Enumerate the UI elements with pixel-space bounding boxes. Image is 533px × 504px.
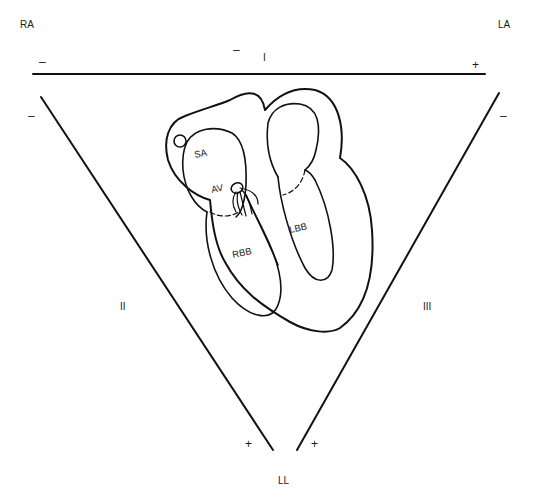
lead-2-negative-sign: – <box>28 109 35 123</box>
lead-1-label: I <box>263 52 266 63</box>
sa-node-label: SA <box>193 146 208 160</box>
einthoven-triangle-diagram: RA LA LL – – I + – II + – III + <box>0 0 533 504</box>
lead-3-label: III <box>423 301 431 312</box>
heart-outer-wall <box>166 89 372 332</box>
electrode-ll-label: LL <box>278 475 290 486</box>
lead-2-line <box>41 97 273 450</box>
mitral-boundary <box>283 170 305 195</box>
lead-1-positive-sign: + <box>472 58 479 72</box>
lead-3-negative-sign: – <box>500 109 507 123</box>
lead-2-positive-sign: + <box>245 437 252 451</box>
av-node-label: AV <box>210 182 225 195</box>
lead-1-center-sign: – <box>233 43 240 57</box>
heart-illustration: SA AV RBB LBB <box>166 89 372 332</box>
electrode-la-label: LA <box>498 19 511 30</box>
lbb-label: LBB <box>288 220 308 234</box>
right-atrium <box>183 129 246 217</box>
rbb-label: RBB <box>231 245 252 260</box>
lead-1-negative-sign: – <box>39 55 46 69</box>
lead-3-line <box>297 93 499 450</box>
left-atrium <box>267 104 318 177</box>
lead-2-label: II <box>120 301 126 312</box>
electrode-ra-label: RA <box>20 19 34 30</box>
sa-node-circle <box>174 135 186 147</box>
lead-3-positive-sign: + <box>311 437 318 451</box>
